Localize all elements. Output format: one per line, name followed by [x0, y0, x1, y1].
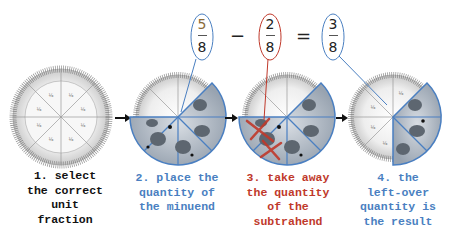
svg-text:⅛: ⅛ [81, 122, 86, 128]
step-1-caption: 1. select the correct unit fraction [10, 169, 120, 227]
svg-text:⅛: ⅛ [399, 90, 404, 96]
equals-sign: = [296, 25, 311, 46]
svg-text:⅛: ⅛ [37, 106, 42, 112]
svg-text:⅛: ⅛ [371, 124, 376, 130]
fraction-bar [266, 35, 275, 36]
result-fraction: 3 8 [320, 16, 346, 55]
subtrahend-fraction: 2 8 [257, 16, 283, 55]
fraction-circle-unit: ⅛⅛ ⅛⅛ ⅛⅛ ⅛⅛ [13, 69, 109, 165]
arrow-icon [225, 114, 238, 122]
svg-text:⅛: ⅛ [49, 92, 54, 98]
fraction-circle-subtrahend [239, 75, 335, 165]
fraction-circle-minuend [130, 75, 226, 165]
svg-text:⅛: ⅛ [49, 136, 54, 142]
subtrahend-numerator: 2 [257, 16, 283, 32]
svg-text:⅛: ⅛ [69, 136, 74, 142]
minuend-denominator: 8 [189, 39, 215, 55]
subtrahend-denominator: 8 [257, 39, 283, 55]
result-denominator: 8 [320, 39, 346, 55]
minuend-fraction: 5 8 [189, 16, 215, 55]
svg-text:⅛: ⅛ [371, 104, 376, 110]
svg-text:⅛: ⅛ [81, 106, 86, 112]
arrow-icon [336, 114, 348, 122]
svg-text:⅛: ⅛ [383, 140, 388, 146]
fraction-circle-result: ⅛⅛ ⅛⅛ [351, 75, 441, 165]
arrow-icon [115, 114, 131, 122]
step-4-caption: 4. the left-over quantity is the result [343, 171, 453, 229]
result-numerator: 3 [320, 16, 346, 32]
minus-sign: − [230, 25, 245, 46]
step-2-caption: 2. place the quantity of the minuend [122, 171, 232, 215]
svg-text:⅛: ⅛ [69, 92, 74, 98]
fraction-bar [329, 35, 338, 36]
fraction-bar [198, 35, 207, 36]
svg-text:⅛: ⅛ [37, 122, 42, 128]
step-3-caption: 3. take away the quantity of the subtrah… [233, 171, 343, 229]
minuend-numerator: 5 [189, 16, 215, 32]
